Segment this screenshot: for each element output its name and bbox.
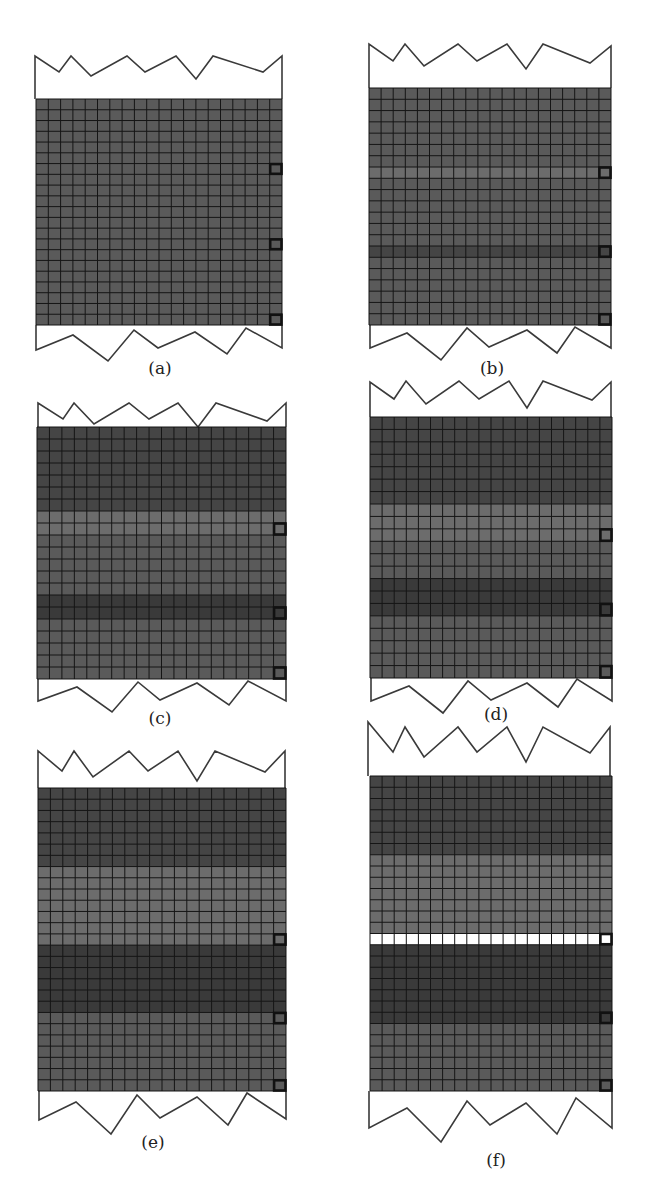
- panel-label: (f): [486, 1150, 506, 1170]
- bottom-fracture-outline: [369, 1091, 612, 1142]
- panel-label: (a): [148, 358, 171, 378]
- mesh-grid: [369, 88, 611, 325]
- mesh-figure: (a)(b)(c)(d)(e)(f): [0, 0, 647, 1190]
- top-fracture-outline: [38, 403, 286, 427]
- panel-d: (d): [370, 381, 612, 724]
- panel-c: (c): [37, 403, 286, 728]
- panel-label: (c): [149, 708, 172, 728]
- panel-f: (f): [368, 722, 612, 1170]
- top-fracture-outline: [368, 722, 610, 776]
- mesh-grid: [38, 788, 286, 1091]
- panel-label: (b): [480, 358, 504, 378]
- panel-label: (e): [141, 1132, 164, 1152]
- top-fracture-outline: [370, 381, 611, 417]
- mesh-grid: [37, 427, 286, 679]
- top-fracture-outline: [38, 751, 285, 788]
- bottom-fracture-outline: [36, 325, 282, 361]
- panel-e: (e): [38, 751, 286, 1152]
- bottom-fracture-outline: [39, 1091, 286, 1134]
- top-fracture-outline: [369, 44, 611, 88]
- panel-b: (b): [369, 44, 611, 378]
- panel-label: (d): [484, 704, 508, 724]
- mesh-grid: [370, 417, 612, 678]
- bottom-fracture-outline: [370, 325, 611, 360]
- mesh-grid: [36, 99, 282, 325]
- top-fracture-outline: [35, 56, 282, 99]
- mesh-grid: [370, 776, 612, 1091]
- panel-a: (a): [35, 56, 282, 378]
